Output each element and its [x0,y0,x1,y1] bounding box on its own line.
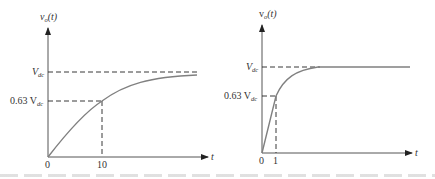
chart-left: vo(t) t Vdc 0.63 Vdc 0 10 [10,11,214,170]
vdc-label: Vdc [246,61,258,73]
figure: vo(t) t Vdc 0.63 Vdc 0 10 vo(t) t Vdc 0.… [0,0,435,179]
tick-tau: 10 [97,159,107,170]
tick-0: 0 [259,155,264,166]
response-curve [48,75,197,157]
y-axis-label: vo(t) [259,8,277,20]
x-axis-label: t [211,151,214,162]
y-axis-label: vo(t) [40,11,58,23]
p63-label: 0.63 Vdc [224,90,257,102]
chart-right: vo(t) t Vdc 0.63 Vdc 0 1 [224,8,418,166]
tick-0: 0 [45,159,50,170]
vdc-label: Vdc [32,66,44,78]
response-curve [262,67,410,153]
tick-tau: 1 [273,155,278,166]
p63-label: 0.63 Vdc [10,95,43,107]
cropped-caption-fragment [0,171,435,179]
x-axis-label: t [415,147,418,158]
